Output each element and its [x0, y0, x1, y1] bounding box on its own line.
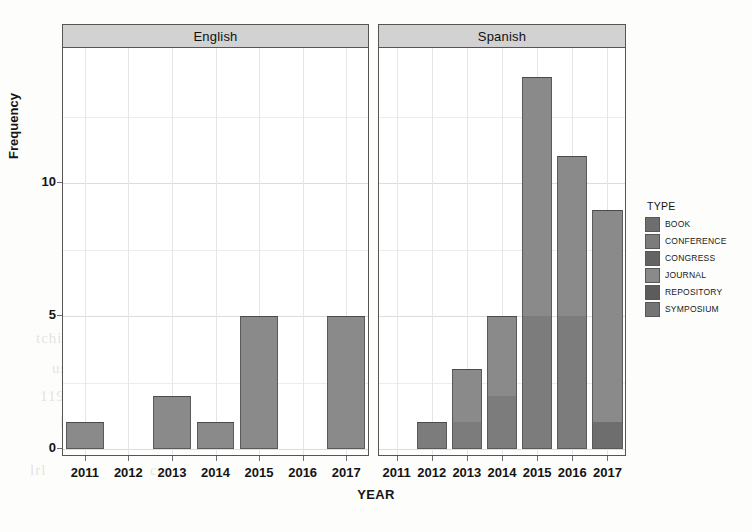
legend-swatch-icon — [645, 217, 660, 232]
bar-segment — [417, 422, 447, 449]
x-tick-label: 2013 — [452, 465, 481, 480]
legend: TYPE BOOKCONFERENCECONGRESSJOURNALREPOSI… — [645, 200, 749, 318]
x-tick-mark — [502, 456, 503, 461]
x-tick-label: 2014 — [201, 465, 230, 480]
x-tick-label: 2013 — [157, 465, 186, 480]
legend-swatch-icon — [645, 234, 660, 249]
gridline-vertical — [172, 48, 173, 455]
x-tick-label: 2012 — [417, 465, 446, 480]
legend-swatch-icon — [645, 285, 660, 300]
bar-segment — [522, 77, 552, 316]
legend-swatch-icon — [645, 302, 660, 317]
x-tick-mark — [216, 456, 217, 461]
facet-strip-english: English — [63, 25, 368, 48]
bar-segment — [66, 422, 103, 449]
bar — [592, 210, 622, 449]
x-tick-mark — [607, 456, 608, 461]
bar-segment — [327, 316, 364, 449]
x-tick-label: 2015 — [245, 465, 274, 480]
x-tick-mark — [128, 456, 129, 461]
bar — [153, 396, 190, 449]
x-tick-mark — [467, 456, 468, 461]
legend-swatch-icon — [645, 268, 660, 283]
bar-segment — [592, 210, 622, 423]
gridline-vertical — [128, 48, 129, 455]
x-tick-mark — [85, 456, 86, 461]
bar-segment — [452, 369, 482, 422]
bar-segment — [487, 316, 517, 396]
legend-item-label: JOURNAL — [665, 270, 706, 280]
plot-area-spanish — [379, 48, 625, 455]
bleedthrough-fragment: tchi — [36, 330, 63, 347]
gridline-vertical — [397, 48, 398, 455]
bar-segment — [592, 422, 622, 449]
bar-segment — [452, 422, 482, 449]
plot-area-english — [63, 48, 368, 455]
bar — [197, 422, 234, 449]
x-tick-label: 2015 — [523, 465, 552, 480]
x-tick-mark — [397, 456, 398, 461]
gridline-vertical — [216, 48, 217, 455]
bleedthrough-fragment: lrl — [30, 462, 46, 479]
legend-swatch-icon — [645, 251, 660, 266]
bar — [557, 156, 587, 449]
bar-segment — [487, 396, 517, 449]
x-tick-mark — [303, 456, 304, 461]
y-axis-title: Frequency — [6, 56, 21, 196]
facet-panel-english: English — [62, 24, 369, 456]
legend-item-label: REPOSITORY — [665, 287, 722, 297]
x-tick-mark — [172, 456, 173, 461]
bar-segment — [153, 396, 190, 449]
bar-segment — [197, 422, 234, 449]
bar — [452, 369, 482, 449]
x-tick-mark — [346, 456, 347, 461]
gridline-vertical — [85, 48, 86, 455]
legend-item[interactable]: REPOSITORY — [645, 284, 749, 300]
x-tick-mark — [432, 456, 433, 461]
facet-panel-spanish: Spanish — [378, 24, 626, 456]
bar-segment — [240, 316, 277, 449]
y-tick-label: 0 — [22, 440, 56, 455]
x-tick-label: 2011 — [382, 465, 410, 480]
bar — [327, 316, 364, 449]
legend-item-label: CONGRESS — [665, 253, 715, 263]
bar — [240, 316, 277, 449]
gridline-vertical — [432, 48, 433, 455]
x-tick-label: 2016 — [558, 465, 587, 480]
x-tick-mark — [259, 456, 260, 461]
legend-item-label: CONFERENCE — [665, 236, 727, 246]
legend-item[interactable]: CONFERENCE — [645, 233, 749, 249]
legend-item-label: SYMPOSIUM — [665, 304, 719, 314]
legend-item[interactable]: CONGRESS — [645, 250, 749, 266]
x-tick-label: 2012 — [114, 465, 143, 480]
legend-item[interactable]: SYMPOSIUM — [645, 301, 749, 317]
bar-segment — [522, 316, 552, 449]
bar-segment — [557, 156, 587, 316]
y-tick-label: 10 — [22, 174, 56, 189]
bar — [487, 316, 517, 449]
legend-title: TYPE — [647, 200, 749, 212]
legend-item[interactable]: JOURNAL — [645, 267, 749, 283]
x-tick-mark — [537, 456, 538, 461]
x-tick-mark — [572, 456, 573, 461]
facet-strip-spanish: Spanish — [379, 25, 625, 48]
x-axis-title: YEAR — [0, 487, 752, 502]
x-tick-label: 2014 — [488, 465, 517, 480]
legend-items: BOOKCONFERENCECONGRESSJOURNALREPOSITORYS… — [645, 216, 749, 317]
x-tick-label: 2017 — [593, 465, 622, 480]
bar — [66, 422, 103, 449]
legend-item-label: BOOK — [665, 219, 690, 229]
x-tick-label: 2016 — [288, 465, 317, 480]
bar-segment — [557, 316, 587, 449]
legend-item[interactable]: BOOK — [645, 216, 749, 232]
chart-root: tchiloladruseurderoce1191CI 1prontemlO t… — [0, 0, 752, 532]
gridline-vertical — [303, 48, 304, 455]
x-tick-label: 2011 — [71, 465, 99, 480]
bar — [417, 422, 447, 449]
y-tick-label: 5 — [22, 307, 56, 322]
x-tick-label: 2017 — [332, 465, 361, 480]
bar — [522, 77, 552, 449]
